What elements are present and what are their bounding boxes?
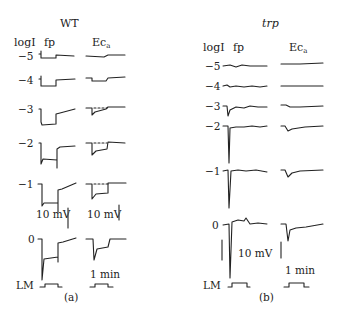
trace-a-ec-m4 xyxy=(86,77,125,81)
trace-b-ec-m1 xyxy=(281,170,323,177)
trace-b-ec-m5 xyxy=(281,63,323,64)
stimulus-b-fp xyxy=(228,283,250,287)
trace-a-ec-m1 xyxy=(86,183,126,199)
trace-b-ec-m2 xyxy=(281,126,323,131)
trace-b-fp-m4 xyxy=(223,85,267,87)
trace-b-fp-m5 xyxy=(223,65,267,67)
stimulus-b-ec xyxy=(284,283,309,287)
trace-b-fp-m3 xyxy=(223,106,267,116)
trace-a-fp-m1 xyxy=(38,183,76,212)
trace-b-fp-m1 xyxy=(223,170,267,208)
stimulus-a-ec xyxy=(90,284,113,287)
electrophysiology-traces xyxy=(0,0,342,319)
trace-b-fp-0 xyxy=(223,218,267,278)
trace-a-fp-m5 xyxy=(39,51,74,58)
trace-b-ec-0 xyxy=(281,224,323,241)
trace-a-fp-0 xyxy=(38,238,76,280)
trace-a-fp-m3 xyxy=(39,109,75,125)
trace-b-ec-m3 xyxy=(281,105,323,107)
trace-a-ec-m5 xyxy=(86,55,125,57)
trace-a-fp-m2 xyxy=(39,143,75,168)
stimulus-a-fp xyxy=(40,284,62,287)
trace-b-fp-m2 xyxy=(223,126,267,163)
trace-a-ec-0 xyxy=(86,239,126,260)
trace-a-fp-m4 xyxy=(39,76,75,86)
trace-a-ec-m2 xyxy=(86,142,125,155)
